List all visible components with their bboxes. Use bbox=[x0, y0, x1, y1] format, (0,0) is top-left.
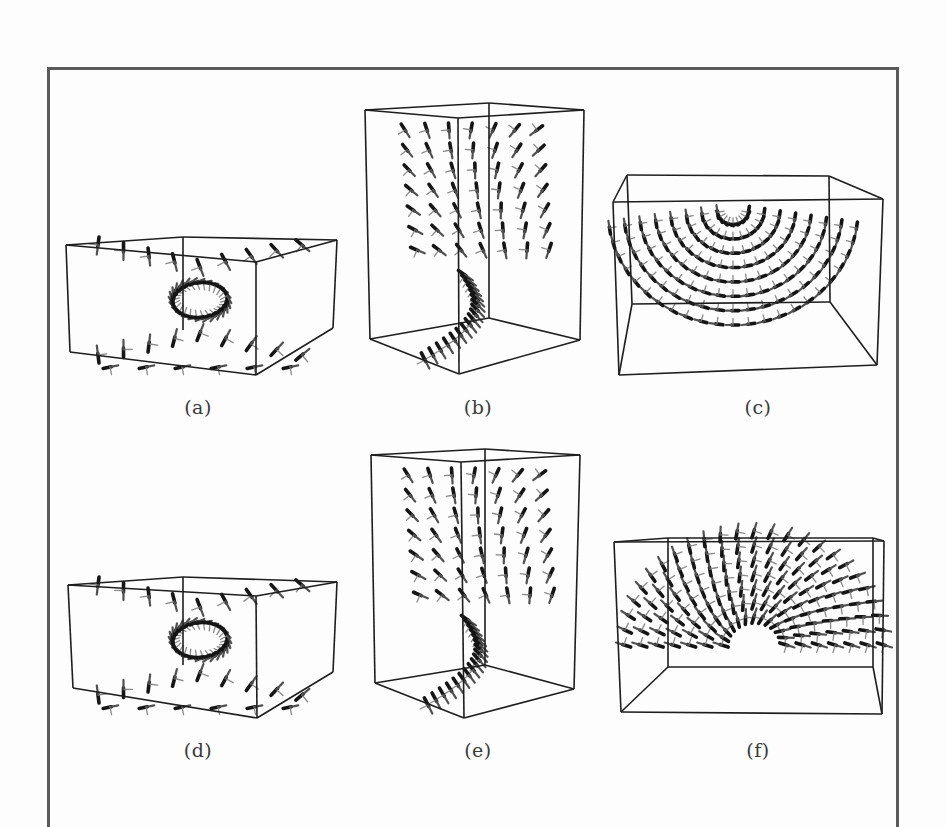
box-edge bbox=[877, 199, 883, 365]
glyph-medium-axis bbox=[741, 295, 748, 296]
glyph-medium-axis bbox=[655, 214, 656, 221]
glyph-medium-axis bbox=[427, 130, 430, 138]
glyph-minor-axis bbox=[218, 262, 226, 266]
glyph-medium-axis bbox=[845, 256, 848, 263]
glyph-medium-axis bbox=[834, 633, 842, 634]
panel-e-plot bbox=[371, 449, 580, 718]
glyph-medium-axis bbox=[716, 205, 717, 212]
glyph-medium-axis bbox=[475, 495, 476, 503]
glyph-medium-axis bbox=[97, 245, 98, 255]
glyph-minor-axis bbox=[801, 554, 807, 559]
glyph-medium-axis bbox=[728, 584, 729, 592]
glyph-minor-axis bbox=[692, 595, 698, 599]
glyph-medium-axis bbox=[678, 603, 684, 609]
glyph-minor-axis bbox=[790, 598, 795, 604]
glyph-minor-axis bbox=[226, 679, 234, 683]
glyph-minor-axis bbox=[512, 470, 518, 475]
glyph-minor-axis bbox=[427, 190, 433, 194]
box-edge bbox=[485, 449, 580, 455]
glyph-medium-axis bbox=[775, 600, 781, 606]
glyph-medium-axis bbox=[833, 592, 841, 595]
glyph-minor-axis bbox=[409, 535, 414, 541]
glyph-medium-axis bbox=[855, 228, 856, 235]
glyph-minor-axis bbox=[784, 612, 788, 618]
glyph-minor-axis bbox=[537, 489, 542, 495]
panel-a-plot bbox=[66, 237, 337, 375]
glyph-minor-axis bbox=[425, 355, 433, 359]
glyph-medium-axis bbox=[670, 212, 671, 219]
glyph-medium-axis bbox=[737, 524, 738, 532]
glyph-minor-axis bbox=[675, 590, 681, 595]
glyph-minor-axis bbox=[775, 606, 781, 611]
glyph-medium-axis bbox=[653, 585, 658, 591]
glyph-medium-axis bbox=[473, 670, 479, 677]
glyph-medium-axis bbox=[435, 210, 441, 216]
glyph-medium-axis bbox=[732, 598, 733, 606]
glyph-minor-axis bbox=[509, 125, 515, 130]
glyph-medium-axis bbox=[704, 621, 710, 627]
box-edge bbox=[256, 582, 337, 596]
glyph-medium-axis bbox=[701, 207, 702, 214]
glyph-medium-axis bbox=[710, 309, 717, 310]
glyph-medium-axis bbox=[538, 515, 544, 521]
glyph-medium-axis bbox=[740, 566, 741, 574]
glyph-medium-axis bbox=[686, 210, 687, 217]
glyph-minor-axis bbox=[541, 551, 548, 555]
glyph-medium-axis bbox=[526, 250, 527, 258]
glyph-medium-axis bbox=[801, 548, 807, 554]
box-edge bbox=[619, 304, 632, 375]
box-edge bbox=[829, 176, 830, 302]
glyph-medium-axis bbox=[769, 287, 775, 290]
box-edge bbox=[830, 302, 877, 365]
glyph-minor-axis bbox=[519, 249, 527, 250]
panel-c-caption: (c) bbox=[745, 396, 772, 418]
panel-b-plot bbox=[365, 103, 584, 374]
glyph-medium-axis bbox=[850, 632, 858, 633]
glyph-medium-axis bbox=[874, 601, 882, 602]
panel-c-plot bbox=[608, 175, 883, 375]
glyph-medium-axis bbox=[149, 674, 150, 684]
glyph-minor-axis bbox=[498, 575, 506, 576]
box-edge bbox=[614, 541, 884, 542]
box-edge bbox=[489, 318, 580, 340]
glyph-minor-axis bbox=[277, 350, 283, 356]
glyph-medium-axis bbox=[486, 595, 489, 603]
glyph-medium-axis bbox=[720, 625, 726, 631]
glyph-minor-axis bbox=[814, 623, 815, 631]
glyph-medium-axis bbox=[505, 250, 506, 258]
glyph-minor-axis bbox=[786, 549, 792, 553]
glyph-medium-axis bbox=[438, 555, 444, 561]
glyph-medium-axis bbox=[631, 246, 634, 253]
glyph-medium-axis bbox=[477, 190, 478, 198]
glyph-minor-axis bbox=[522, 594, 530, 595]
glyph-minor-axis bbox=[678, 614, 683, 620]
box-edge bbox=[829, 176, 883, 199]
glyph-minor-axis bbox=[302, 695, 308, 702]
box-edge bbox=[873, 667, 882, 714]
glyph-medium-axis bbox=[420, 595, 428, 598]
glyph-medium-axis bbox=[681, 299, 688, 302]
glyph-medium-axis bbox=[480, 535, 481, 543]
glyph-minor-axis bbox=[432, 230, 437, 236]
glyph-medium-axis bbox=[498, 190, 499, 198]
glyph-medium-axis bbox=[429, 150, 432, 158]
glyph-medium-axis bbox=[440, 575, 446, 581]
glyph-medium-axis bbox=[149, 256, 150, 266]
glyph-medium-axis bbox=[412, 515, 418, 521]
glyph-medium-axis bbox=[857, 602, 865, 603]
box-edge bbox=[459, 340, 580, 374]
glyph-medium-axis bbox=[644, 598, 650, 604]
glyph-minor-axis bbox=[511, 146, 517, 150]
glyph-minor-axis bbox=[514, 491, 520, 495]
glyph-minor-axis bbox=[277, 690, 283, 696]
glyph-medium-axis bbox=[816, 596, 824, 599]
glyph-minor-axis bbox=[779, 592, 785, 597]
glyph-minor-axis bbox=[684, 604, 690, 609]
glyph-medium-axis bbox=[414, 535, 420, 540]
glyph-minor-axis bbox=[270, 251, 276, 257]
glyph-minor-axis bbox=[535, 469, 540, 475]
glyph-medium-axis bbox=[277, 342, 284, 349]
glyph-minor-axis bbox=[472, 535, 480, 536]
glyph-minor-axis bbox=[741, 589, 749, 590]
glyph-minor-axis bbox=[537, 185, 543, 190]
